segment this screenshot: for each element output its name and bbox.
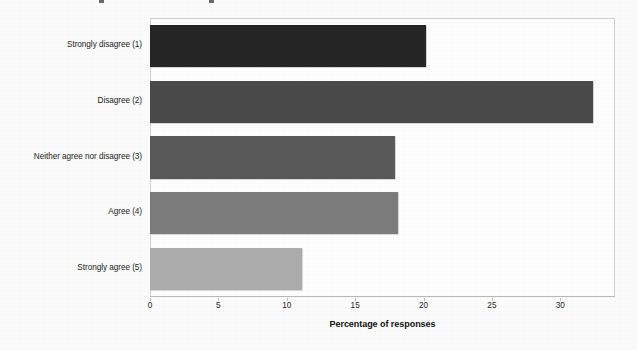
category-label: Disagree (2) [98,97,142,105]
x-axis-title: Percentage of responses [150,320,615,329]
scan-artifact-mark [209,0,214,3]
scan-artifact-mark [99,0,104,3]
bar [150,248,302,290]
x-tick-label: 20 [419,302,428,310]
bar [150,81,593,123]
x-tick-label: 10 [282,302,291,310]
x-tick-label: 0 [148,302,153,310]
category-label: Agree (4) [108,208,142,216]
x-axis-line [150,296,615,297]
category-label: Strongly agree (5) [77,264,142,272]
x-tick-label: 25 [487,302,496,310]
bars-layer [150,18,615,297]
category-axis-labels: Strongly disagree (1)Disagree (2)Neither… [0,18,146,297]
x-tick-label: 5 [216,302,221,310]
category-label: Strongly disagree (1) [67,41,142,49]
bar-chart-figure: Strongly disagree (1)Disagree (2)Neither… [0,0,637,350]
bar [150,25,426,67]
x-tick-label: 30 [556,302,565,310]
bar [150,192,398,234]
category-label: Neither agree nor disagree (3) [34,153,142,161]
x-tick-label: 15 [351,302,360,310]
x-axis-ticks: 051015202530 [150,298,615,312]
bar [150,136,395,178]
